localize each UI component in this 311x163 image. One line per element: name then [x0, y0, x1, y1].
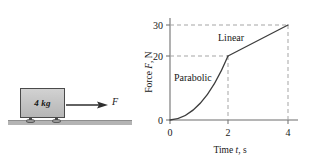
force-symbol-label: F	[112, 96, 118, 107]
annotation-parabolic: Parabolic	[174, 72, 212, 83]
x-tick-label-0: 0	[168, 127, 173, 138]
y-axis-title-pre: Force	[144, 69, 154, 93]
x-tick-label-4: 4	[286, 127, 291, 138]
cart-free-body-diagram: 4 kg F	[0, 0, 150, 163]
svg-text:Force F, N: Force F, N	[144, 51, 154, 93]
x-tick-label-2: 2	[226, 127, 231, 138]
y-tick-label-20: 20	[153, 51, 163, 62]
y-axis-title-post: , N	[144, 51, 154, 63]
x-axis-title: Time t, s	[213, 145, 246, 155]
x-axis-ticks: 0 2 4	[168, 120, 291, 138]
curve-parabolic-segment	[170, 56, 228, 120]
annotation-linear: Linear	[218, 32, 245, 43]
cart-block: 4 kg	[20, 88, 65, 118]
svg-text:Time t, s: Time t, s	[213, 145, 246, 155]
y-axis-title: Force F, N	[144, 51, 154, 93]
y-tick-label-30: 30	[153, 20, 163, 31]
force-time-chart: 30 20 0 0 2 4 Parabolic Linear	[140, 0, 311, 163]
x-axis-title-pre: Time	[213, 145, 235, 155]
x-axis-title-post: , s	[238, 145, 247, 155]
force-arrow-right-icon	[66, 101, 108, 109]
physics-figure: 4 kg F 30 20	[0, 0, 311, 163]
y-tick-label-0: 0	[158, 115, 163, 126]
cart-mass-label: 4 kg	[21, 89, 64, 117]
y-axis-ticks: 30 20 0	[153, 20, 170, 126]
